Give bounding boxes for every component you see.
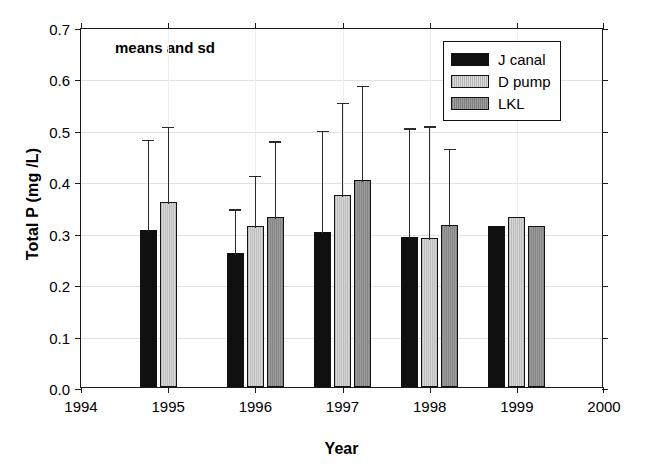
x-tick-label: 1995 xyxy=(151,398,184,415)
x-tick-mark xyxy=(343,387,344,393)
x-tick-mark xyxy=(343,23,344,29)
x-tick-label: 2000 xyxy=(587,398,620,415)
y-tick-mark xyxy=(75,338,81,339)
y-tick-mark xyxy=(602,286,608,287)
chart-figure: Total P (mg /L) Year means and sd 0.00.1… xyxy=(0,0,650,473)
x-tick-label: 1996 xyxy=(239,398,272,415)
x-tick-label: 1994 xyxy=(64,398,97,415)
error-bar-stem xyxy=(275,141,276,219)
x-tick-mark xyxy=(517,23,518,29)
x-tick-label: 1999 xyxy=(500,398,533,415)
y-tick-mark xyxy=(602,132,608,133)
y-tick-label: 0.6 xyxy=(49,72,70,89)
bar-lkl-1998 xyxy=(441,225,458,387)
x-axis-title: Year xyxy=(80,440,603,458)
y-tick-label: 0.3 xyxy=(49,226,70,243)
bar-j-canal-1999 xyxy=(488,226,505,387)
bar-lkl-1997 xyxy=(354,180,371,387)
error-bar-stem xyxy=(429,126,430,240)
y-tick-mark xyxy=(602,80,608,81)
y-tick-mark xyxy=(75,235,81,236)
y-tick-mark xyxy=(75,29,81,30)
bar-j-canal-1996 xyxy=(227,253,244,387)
y-tick-mark xyxy=(75,286,81,287)
error-bar-stem xyxy=(342,103,343,198)
x-tick-mark xyxy=(603,23,604,29)
y-tick-label: 0.0 xyxy=(49,381,70,398)
error-bar-cap xyxy=(444,149,456,151)
bar-j-canal-1995 xyxy=(140,230,157,387)
error-bar-stem xyxy=(322,131,323,234)
error-bar-cap xyxy=(357,86,369,88)
plot-area: means and sd 0.00.10.20.30.40.50.60.7 19… xyxy=(80,28,603,388)
x-tick-mark xyxy=(517,387,518,393)
error-bar-cap xyxy=(142,140,154,142)
error-bar-cap xyxy=(317,131,329,133)
x-tick-label: 1998 xyxy=(413,398,446,415)
bar-d-pump-1996 xyxy=(247,226,264,387)
legend-item-label: D pump xyxy=(498,74,551,89)
y-tick-label: 0.1 xyxy=(49,329,70,346)
y-tick-mark xyxy=(602,338,608,339)
x-tick-mark xyxy=(255,387,256,393)
legend-swatch-icon xyxy=(451,53,489,66)
legend-item-lkl[interactable]: LKL xyxy=(451,92,551,114)
x-tick-mark xyxy=(430,23,431,29)
y-axis-title: Total P (mg /L) xyxy=(24,79,42,329)
bar-d-pump-1995 xyxy=(160,202,177,387)
bar-j-canal-1997 xyxy=(314,232,331,387)
plot-annotation: means and sd xyxy=(115,39,215,56)
y-tick-mark xyxy=(602,183,608,184)
error-bar-stem xyxy=(235,209,236,255)
legend-item-label: J canal xyxy=(498,52,546,67)
error-bar-cap xyxy=(162,127,174,129)
y-tick-mark xyxy=(75,80,81,81)
bar-lkl-1999 xyxy=(528,226,545,387)
x-tick-mark xyxy=(255,23,256,29)
bar-d-pump-1999 xyxy=(508,217,525,387)
x-tick-mark xyxy=(430,387,431,393)
legend-swatch-icon xyxy=(451,97,489,110)
legend-item-j-canal[interactable]: J canal xyxy=(451,48,551,70)
error-bar-stem xyxy=(449,149,450,227)
y-tick-label: 0.2 xyxy=(49,278,70,295)
legend-item-d-pump[interactable]: D pump xyxy=(451,70,551,92)
error-bar-cap xyxy=(249,176,261,178)
x-tick-mark xyxy=(81,23,82,29)
y-tick-mark xyxy=(602,29,608,30)
y-tick-mark xyxy=(75,132,81,133)
error-bar-stem xyxy=(362,86,363,183)
error-bar-stem xyxy=(255,176,256,228)
error-bar-stem xyxy=(148,140,149,233)
legend: J canalD pumpLKL xyxy=(443,41,561,121)
x-tick-label: 1997 xyxy=(326,398,359,415)
error-bar-cap xyxy=(424,126,436,128)
error-bar-cap xyxy=(404,128,416,130)
bar-d-pump-1997 xyxy=(334,195,351,387)
bar-d-pump-1998 xyxy=(421,238,438,387)
y-tick-mark xyxy=(75,183,81,184)
y-tick-label: 0.4 xyxy=(49,175,70,192)
y-tick-mark xyxy=(602,235,608,236)
error-bar-stem xyxy=(168,127,169,205)
error-bar-cap xyxy=(269,141,281,143)
x-tick-mark xyxy=(168,23,169,29)
x-tick-mark xyxy=(168,387,169,393)
error-bar-cap xyxy=(229,209,241,211)
x-tick-mark xyxy=(81,387,82,393)
y-tick-label: 0.7 xyxy=(49,21,70,38)
legend-swatch-icon xyxy=(451,75,489,88)
legend-item-label: LKL xyxy=(498,96,525,111)
bar-j-canal-1998 xyxy=(401,237,418,387)
error-bar-cap xyxy=(337,103,349,105)
y-tick-label: 0.5 xyxy=(49,123,70,140)
x-tick-mark xyxy=(603,387,604,393)
error-bar-stem xyxy=(409,128,410,239)
bar-lkl-1996 xyxy=(267,217,284,387)
